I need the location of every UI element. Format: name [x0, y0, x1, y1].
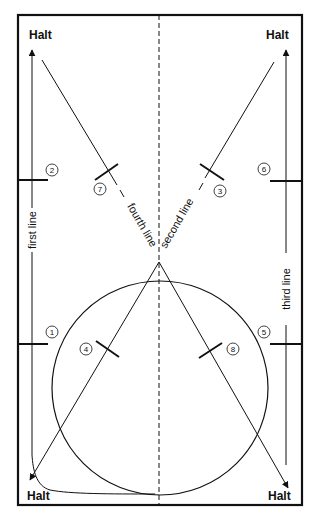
third-line-label: third line	[280, 268, 292, 310]
marker-7: 7	[94, 183, 106, 195]
marker-2: 2	[46, 164, 58, 176]
second-line-dash	[199, 183, 203, 190]
halt-bottom-left: Halt	[27, 489, 50, 503]
marker-3: 3	[214, 185, 226, 197]
arena-border	[18, 15, 302, 505]
marker-2-label: 2	[50, 166, 55, 175]
halt-top-right: Halt	[266, 28, 289, 42]
halt-top-left: Halt	[29, 28, 52, 42]
marker-3-label: 3	[218, 187, 223, 196]
second-line-lower	[30, 262, 159, 480]
fourth-line-dash	[120, 190, 124, 197]
marker-1: 1	[46, 326, 58, 338]
fourth-line-label: fourth line	[125, 201, 160, 249]
marker-8-label: 8	[231, 345, 236, 354]
first-line-label: first line	[26, 211, 38, 249]
tick-4	[96, 341, 119, 357]
second-line-upper	[205, 62, 274, 178]
arena-svg: 2 7 3 6 1 4 5 8 first line third line fo…	[0, 0, 317, 518]
marker-4-label: 4	[84, 345, 89, 354]
fourth-line-lower	[159, 262, 288, 488]
marker-5-label: 5	[262, 328, 267, 337]
arena-diagram: 2 7 3 6 1 4 5 8 first line third line fo…	[0, 0, 317, 518]
tick-7	[95, 164, 118, 180]
second-line-label: second line	[157, 196, 195, 250]
marker-8: 8	[227, 343, 239, 355]
tick-8	[199, 343, 222, 358]
marker-6: 6	[258, 163, 270, 175]
halt-bottom-right: Halt	[268, 489, 291, 503]
marker-4: 4	[80, 343, 92, 355]
marker-6-label: 6	[262, 165, 267, 174]
marker-1-label: 1	[50, 328, 55, 337]
marker-5: 5	[258, 326, 270, 338]
marker-7-label: 7	[98, 185, 103, 194]
